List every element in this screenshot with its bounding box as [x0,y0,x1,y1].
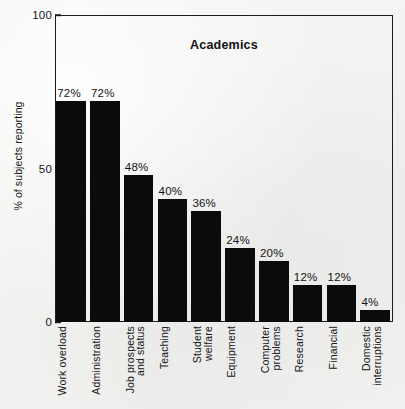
bar-value-label: 36% [192,197,216,209]
x-axis-category-label: Administration [91,326,121,409]
bar-group[interactable]: 4% [360,15,390,322]
bar[interactable] [360,310,390,322]
bar-group[interactable]: 72% [56,15,86,322]
x-axis-category-label: Job prospectsand status [125,326,155,409]
bar[interactable] [56,101,86,322]
chart-title: Academics [55,38,393,52]
x-axis-category-label: Computerproblems [260,326,290,409]
bar-value-label: 72% [91,87,115,99]
bar-group[interactable]: 12% [327,15,357,322]
bar[interactable] [158,199,188,322]
bar-value-label: 48% [125,161,149,173]
bar-group[interactable]: 12% [293,15,323,322]
x-axis-category-label: Domesticinterruptions [361,326,391,409]
bar-group[interactable]: 20% [259,15,289,322]
bar-value-label: 40% [159,185,183,197]
x-axis-category-label-line: and status [135,326,146,376]
x-axis-category-label-line: Equipment [226,326,237,378]
bar[interactable] [225,248,255,322]
x-axis-category-label-line: interruptions [372,326,383,386]
bar-value-label: 72% [57,87,81,99]
bar-value-label: 20% [260,247,284,259]
bar-value-label: 12% [328,271,352,283]
x-axis-category-label-line: Financial [328,326,339,369]
x-axis-category-label-line: Administration [91,326,102,395]
bar[interactable] [293,285,323,322]
bar-group[interactable]: 40% [158,15,188,322]
bar[interactable] [327,285,357,322]
x-axis-category-label: Work overload [57,326,87,409]
y-axis-tick-label: 50 [0,163,52,175]
x-axis-labels: Work overloadAdministrationJob prospects… [55,326,393,409]
x-axis-category-label: Teaching [159,326,189,409]
y-axis-tick-label: 0 [0,316,52,328]
bar-group[interactable]: 72% [90,15,120,322]
bars-layer: 72%72%48%40%36%24%20%12%12%4% [55,15,393,322]
bar[interactable] [124,175,154,322]
bar[interactable] [191,211,221,322]
x-axis-category-label-line: Research [294,326,305,372]
bar-group[interactable]: 48% [124,15,154,322]
y-axis-title: % of subjects reporting [12,56,24,256]
bar-chart: % of subjects reporting 050100 72%72%48%… [0,0,405,409]
bar-value-label: 4% [361,296,378,308]
bar-group[interactable]: 36% [191,15,221,322]
bar-value-label: 24% [226,234,250,246]
x-axis-category-label: Research [294,326,324,409]
x-axis-category-label: Studentwelfare [192,326,222,409]
bar[interactable] [259,261,289,322]
x-axis-category-label-line: welfare [203,326,214,361]
y-axis-tick-label: 100 [0,9,52,21]
x-axis-category-label-line: problems [271,326,282,370]
x-axis-category-label-line: Teaching [159,326,170,369]
bar[interactable] [90,101,120,322]
bar-value-label: 12% [294,271,318,283]
x-axis-category-label-line: Computer [260,326,271,373]
x-axis-category-label-line: Work overload [57,326,68,395]
x-axis-category-label: Equipment [226,326,256,409]
x-axis-category-label: Financial [328,326,358,409]
bar-group[interactable]: 24% [225,15,255,322]
